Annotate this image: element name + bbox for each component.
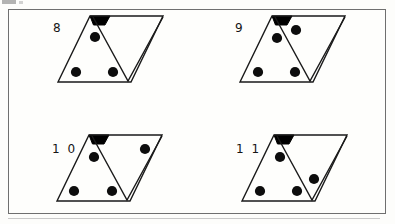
figure-label-10: 1 0	[52, 143, 77, 155]
figure-page: 8 9 1 0 1 1	[0, 0, 395, 224]
scan-artifact-icon	[2, 0, 16, 4]
scan-artifact-secondary-icon	[19, 1, 23, 4]
scan-bottom-edge	[8, 218, 380, 219]
figure-label-8: 8	[53, 22, 63, 34]
figure-label-11: 1 1	[236, 143, 261, 155]
figure-label-9: 9	[235, 22, 245, 34]
figure-frame-border	[8, 9, 386, 214]
